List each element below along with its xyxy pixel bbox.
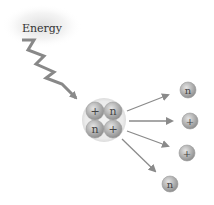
nucleus-particle-neutron: n xyxy=(86,120,104,138)
nuclear-fission-diagram: Energy + n n + n xyxy=(0,0,214,205)
svg-text:n: n xyxy=(109,105,116,118)
svg-text:n: n xyxy=(167,179,174,190)
arrow-3 xyxy=(127,131,168,146)
ejected-particle-proton: + xyxy=(179,145,195,161)
nucleus-particle-proton: + xyxy=(104,120,122,138)
ejection-arrows xyxy=(122,95,172,171)
nucleus-particle-neutron: n xyxy=(104,102,122,120)
ejected-particle-neutron: n xyxy=(162,176,178,192)
nucleus-particle-proton: + xyxy=(86,102,104,120)
svg-text:+: + xyxy=(108,123,117,136)
energy-source: Energy xyxy=(2,4,82,48)
energy-zigzag-arrow xyxy=(22,40,76,98)
arrow-1 xyxy=(127,95,168,111)
ejected-particle-neutron: n xyxy=(180,82,196,98)
energy-label: Energy xyxy=(22,22,63,35)
nucleus: + n n + xyxy=(82,98,126,142)
svg-text:n: n xyxy=(91,123,98,136)
ejected-particle-proton: + xyxy=(182,113,198,129)
svg-text:+: + xyxy=(90,105,99,118)
arrow-4 xyxy=(122,139,155,171)
svg-text:+: + xyxy=(186,116,194,127)
svg-text:n: n xyxy=(185,85,192,96)
svg-text:+: + xyxy=(183,148,191,159)
